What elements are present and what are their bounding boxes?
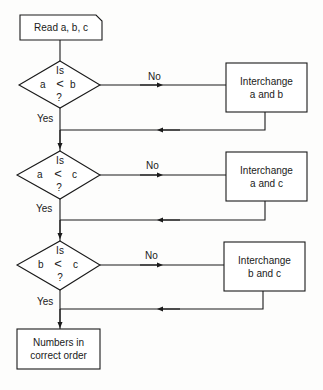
process-1-line2: a and b — [250, 88, 283, 101]
process-1-line1: Interchange — [240, 75, 293, 88]
start-read-node: Read a, b, c — [20, 15, 102, 40]
decision-2-op: < — [54, 168, 62, 180]
flowchart-canvas: Read a, b, c Is a < b ? Yes No Interchan… — [0, 0, 323, 390]
decision-3-right: c — [73, 259, 78, 271]
end-line2: correct order — [30, 349, 87, 362]
decision-2-no: No — [146, 160, 159, 172]
decision-1-left: a — [40, 79, 46, 91]
decision-2-right: c — [72, 169, 77, 181]
process-3-line1: Interchange — [238, 254, 291, 267]
decision-3-question: ? — [57, 272, 63, 284]
process-2-node: Interchange a and c — [226, 152, 307, 201]
decision-2-left: a — [37, 169, 43, 181]
decision-1-yes: Yes — [37, 113, 53, 125]
decision-1-right: b — [70, 79, 76, 91]
end-node: Numbers in correct order — [17, 329, 100, 369]
decision-3-yes: Yes — [37, 296, 53, 308]
start-label: Read a, b, c — [34, 21, 88, 34]
process-3-line2: b and c — [248, 267, 281, 280]
decision-1-question: ? — [56, 92, 62, 104]
decision-3-op: < — [54, 258, 62, 270]
decision-3-left: b — [38, 259, 44, 271]
process-2-line1: Interchange — [240, 164, 293, 177]
decision-1-no: No — [148, 71, 161, 83]
decision-1-op: < — [56, 78, 64, 90]
decision-3-no: No — [145, 250, 158, 262]
end-line1: Numbers in — [33, 336, 84, 349]
process-3-node: Interchange b and c — [224, 242, 305, 291]
process-2-line2: a and c — [250, 177, 283, 190]
process-1-node: Interchange a and b — [226, 63, 307, 112]
decision-2-yes: Yes — [36, 203, 52, 215]
decision-2-question: ? — [56, 182, 62, 194]
